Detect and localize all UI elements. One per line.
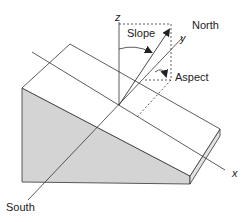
aspect-label: Aspect (175, 72, 209, 83)
diagram-graphics (0, 0, 247, 222)
north-label: North (192, 20, 219, 31)
slope-label: Slope (127, 28, 155, 39)
y-axis-label: y (180, 33, 186, 44)
slope-aspect-diagram: z y x Slope Aspect North South (0, 0, 247, 222)
z-axis-label: z (115, 12, 121, 23)
slope-angle-arc (119, 47, 151, 52)
aspect-angle-arc (155, 70, 166, 76)
x-axis-label: x (232, 168, 238, 179)
south-label: South (6, 202, 35, 213)
